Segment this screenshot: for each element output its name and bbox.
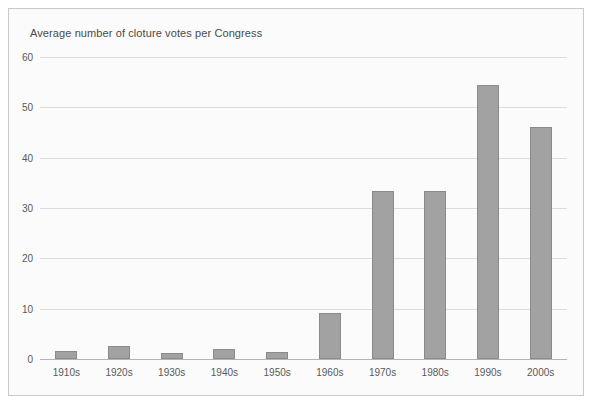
bar-slot: 1930s — [145, 57, 198, 359]
bar[interactable] — [266, 352, 288, 359]
x-axis-tick-label: 1910s — [53, 367, 80, 378]
x-axis-tick-label: 1930s — [158, 367, 185, 378]
gridline: 0 — [40, 359, 567, 360]
x-axis-tick-label: 1970s — [369, 367, 396, 378]
chart-title: Average number of cloture votes per Cong… — [30, 27, 262, 39]
bar-slot: 1920s — [93, 57, 146, 359]
bar[interactable] — [213, 349, 235, 359]
x-axis-tick-label: 1950s — [264, 367, 291, 378]
bars-group: 1910s1920s1930s1940s1950s1960s1970s1980s… — [40, 57, 567, 359]
bar-slot: 1910s — [40, 57, 93, 359]
y-axis-tick-label: 10 — [22, 303, 33, 314]
bar-slot: 1950s — [251, 57, 304, 359]
bar-slot: 1990s — [462, 57, 515, 359]
y-axis-tick-label: 40 — [22, 152, 33, 163]
plot-area: 0102030405060 1910s1920s1930s1940s1950s1… — [40, 57, 567, 359]
bar-slot: 1960s — [304, 57, 357, 359]
bar[interactable] — [108, 346, 130, 359]
bar[interactable] — [55, 351, 77, 359]
bar-slot: 1970s — [356, 57, 409, 359]
bar[interactable] — [530, 127, 552, 359]
bar[interactable] — [319, 313, 341, 359]
x-axis-tick-label: 1920s — [105, 367, 132, 378]
y-axis-tick-label: 60 — [22, 52, 33, 63]
y-axis-tick-label: 30 — [22, 203, 33, 214]
x-axis-tick-label: 2000s — [527, 367, 554, 378]
y-axis-tick-label: 0 — [27, 354, 33, 365]
bar[interactable] — [161, 353, 183, 359]
x-axis-tick-label: 1990s — [474, 367, 501, 378]
y-axis-tick-label: 20 — [22, 253, 33, 264]
bar-slot: 2000s — [514, 57, 567, 359]
bar[interactable] — [424, 191, 446, 359]
bar[interactable] — [372, 191, 394, 359]
bar[interactable] — [477, 85, 499, 359]
x-axis-tick-label: 1960s — [316, 367, 343, 378]
chart-figure: Average number of cloture votes per Cong… — [8, 8, 584, 396]
bar-slot: 1980s — [409, 57, 462, 359]
x-axis-tick-label: 1940s — [211, 367, 238, 378]
x-axis-tick-label: 1980s — [422, 367, 449, 378]
bar-slot: 1940s — [198, 57, 251, 359]
y-axis-tick-label: 50 — [22, 102, 33, 113]
